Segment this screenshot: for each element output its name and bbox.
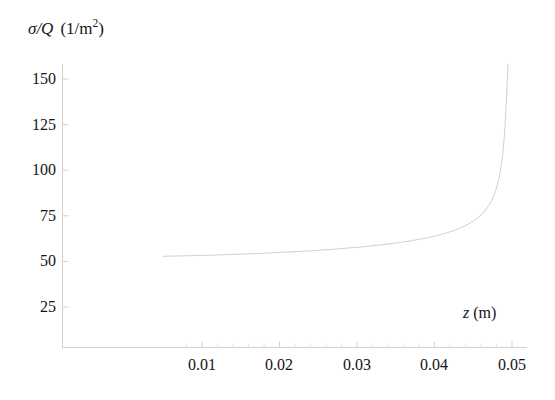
axis-spines: [62, 64, 527, 348]
y-tick-label-150: 150: [10, 71, 56, 87]
y-tick-label-50: 50: [10, 253, 56, 269]
x-tick-label-0.03: 0.03: [322, 357, 392, 373]
y-tick-label-125: 125: [10, 117, 56, 133]
x-tick-label-0.02: 0.02: [244, 357, 314, 373]
chart-figure: σ/Q(1/m2) z(m): [0, 0, 555, 400]
y-axis-ticks: [63, 79, 69, 307]
data-series-line: [163, 64, 508, 256]
x-axis-minor-ticks: [187, 344, 497, 348]
x-tick-label-0.04: 0.04: [399, 357, 469, 373]
y-tick-label-25: 25: [10, 299, 56, 315]
x-tick-label-0.05: 0.05: [477, 357, 547, 373]
y-tick-label-75: 75: [10, 208, 56, 224]
y-tick-label-100: 100: [10, 162, 56, 178]
plot-area: [0, 0, 555, 400]
x-tick-label-0.01: 0.01: [167, 357, 237, 373]
